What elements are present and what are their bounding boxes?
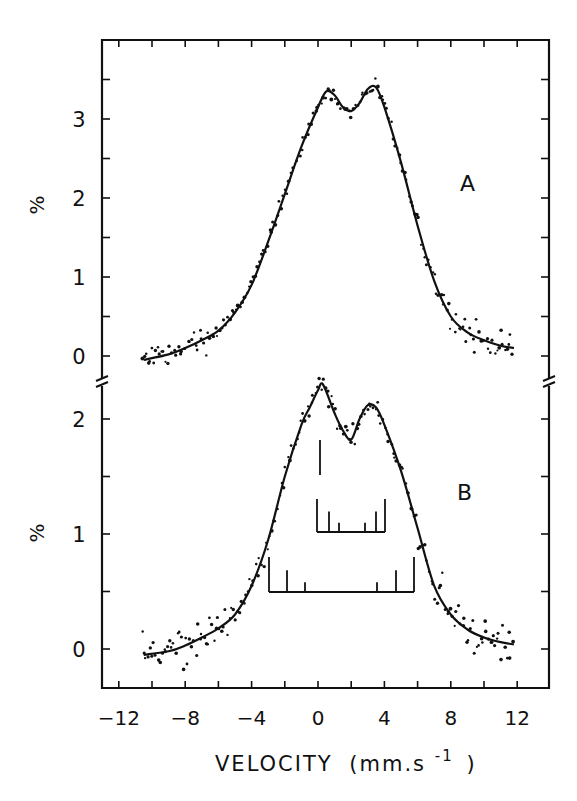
y-tick-labels-b: 012 [72, 408, 85, 662]
x-tick-label: 4 [378, 706, 391, 730]
panel-label-b: B [457, 480, 472, 505]
y-tick-label: 0 [72, 638, 85, 662]
x-tick-labels: −12−8−404812 [98, 706, 530, 730]
stick-diagrams-b [269, 440, 414, 592]
y-tick-label: 1 [72, 266, 85, 290]
y-tick-label: 2 [72, 187, 85, 211]
x-tick-label: 0 [312, 706, 325, 730]
x-axis-title: VELOCITY (mm.s -1 ) [215, 742, 477, 776]
y-tick-labels-a: 0123 [72, 108, 85, 369]
y-axis-label-a: % [25, 195, 49, 214]
x-tick-label: −12 [98, 706, 140, 730]
axis-break-marks [96, 376, 555, 387]
y-tick-label: 1 [72, 523, 85, 547]
fit-curve-a [144, 86, 514, 360]
y-tick-label: 0 [72, 345, 85, 369]
data-points-a [141, 77, 514, 365]
x-axis-title-close: ) [466, 752, 476, 776]
x-tick-label: −8 [170, 706, 199, 730]
y-tick-label: 2 [72, 408, 85, 432]
x-tick-label: 8 [444, 706, 457, 730]
x-axis-title-unit: (mm.s [349, 752, 426, 776]
y-tick-label: 3 [72, 108, 85, 132]
y-axis-label-b: % [25, 523, 49, 542]
x-tick-label: 12 [504, 706, 529, 730]
svg-text:VELOCITY (mm.s -1: VELOCITY (mm.s -1 ) [215, 742, 477, 776]
x-axis-title-main: VELOCITY [215, 752, 333, 776]
x-tick-label: −4 [237, 706, 266, 730]
figure: 0123 012 −12−8−404812 A B % % VELOCITY (… [0, 0, 577, 801]
panel-label-a: A [460, 171, 475, 196]
x-axis-title-sup: -1 [435, 747, 454, 765]
